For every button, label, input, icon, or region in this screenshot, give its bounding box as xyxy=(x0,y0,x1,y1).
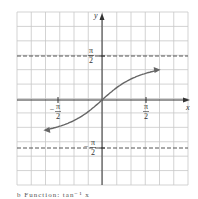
svg-text:π: π xyxy=(56,102,60,111)
figure-caption: b Function: tan⁻¹ x xyxy=(17,191,90,199)
curve-arrow-left-icon xyxy=(43,127,50,133)
svg-text:2: 2 xyxy=(89,56,93,65)
svg-text:2: 2 xyxy=(91,148,95,157)
y-axis-label: y xyxy=(93,11,98,20)
svg-text:2: 2 xyxy=(56,112,60,121)
svg-text:−: − xyxy=(84,142,89,151)
x-axis-label: x xyxy=(185,103,190,112)
label-x-neg-pi-2: − π 2 xyxy=(50,102,61,121)
label-y-pi-2: π 2 xyxy=(88,46,94,65)
label-x-pi-2: π 2 xyxy=(143,102,149,121)
svg-text:π: π xyxy=(89,46,93,55)
svg-text:π: π xyxy=(144,102,148,111)
y-axis-arrow-icon xyxy=(100,13,105,20)
arctan-chart: y x π 2 − π 2 − π 2 π 2 xyxy=(0,0,198,199)
svg-text:−: − xyxy=(50,105,55,114)
svg-text:2: 2 xyxy=(144,112,148,121)
svg-text:π: π xyxy=(91,138,95,147)
